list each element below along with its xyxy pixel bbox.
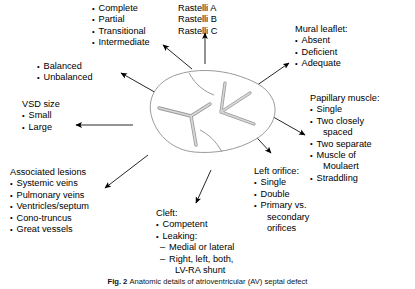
arrow-to-balance bbox=[121, 73, 158, 94]
block-header: Papillary muscle: bbox=[310, 93, 379, 104]
arrow-to-defect-type bbox=[163, 45, 192, 69]
list-item: orifices bbox=[254, 223, 309, 234]
block-header: Left orifice: bbox=[254, 166, 309, 177]
list-item: Large bbox=[22, 122, 60, 133]
caption-label: Fig. 2 bbox=[108, 277, 128, 286]
mural-leaflet-list: Absent Deficient Adequate bbox=[295, 35, 348, 69]
associated-lesions-list: Systemic veins Pulmonary veins Ventricle… bbox=[10, 178, 89, 235]
list-item: Cono-truncus bbox=[10, 213, 89, 224]
list-item: Two separate bbox=[310, 139, 379, 150]
list-item: Single bbox=[310, 104, 379, 115]
block-header: Associated lesions bbox=[10, 167, 89, 178]
block-left-orifice: Left orifice: Single Double Primary vs. … bbox=[254, 166, 309, 234]
block-header: Mural leaflet: bbox=[295, 24, 348, 35]
list-item: LV-RA shunt bbox=[156, 265, 234, 276]
list-item: Moulaert bbox=[310, 161, 379, 172]
list-item: Pulmonary veins bbox=[10, 190, 89, 201]
list-item: Unbalanced bbox=[37, 72, 93, 83]
block-header: Cleft: bbox=[156, 208, 234, 219]
block-cleft: Cleft: Competent Leaking: Medial or late… bbox=[156, 208, 234, 276]
list-item: Transitional bbox=[92, 26, 150, 37]
cleft-list: Competent Leaking: Medial or lateral Rig… bbox=[156, 219, 234, 276]
arrow-to-associated-lesions bbox=[105, 155, 148, 188]
list-item: Rastelli A bbox=[178, 3, 217, 14]
block-papillary-muscle: Papillary muscle: Single Two closely spa… bbox=[310, 93, 379, 184]
block-balance: Balanced Unbalanced bbox=[37, 61, 93, 84]
list-item: Medial or lateral bbox=[156, 242, 234, 253]
list-item: Right, left, both, bbox=[156, 254, 234, 265]
list-item: Great vessels bbox=[10, 224, 89, 235]
vsd-size-list: Small Large bbox=[22, 110, 60, 133]
block-mural-leaflet: Mural leaflet: Absent Deficient Adequate bbox=[295, 24, 348, 70]
block-associated-lesions: Associated lesions Systemic veins Pulmon… bbox=[10, 167, 89, 235]
rastelli-list: Rastelli A Rastelli B Rastelli C bbox=[178, 3, 217, 37]
list-item: Primary vs. bbox=[254, 200, 309, 211]
list-item: Double bbox=[254, 189, 309, 200]
list-item: Single bbox=[254, 177, 309, 188]
balance-list: Balanced Unbalanced bbox=[37, 61, 93, 84]
arrow-to-cleft bbox=[196, 170, 211, 203]
list-item: Complete bbox=[92, 3, 150, 14]
list-item: Systemic veins bbox=[10, 178, 89, 189]
left-orifice-list: Single Double Primary vs. secondary orif… bbox=[254, 177, 309, 234]
block-defect-type: Complete Partial Transitional Intermedia… bbox=[92, 3, 150, 49]
papillary-muscle-list: Single Two closely spaced Two separate M… bbox=[310, 104, 379, 184]
block-rastelli: Rastelli A Rastelli B Rastelli C bbox=[178, 3, 217, 37]
list-item: Adequate bbox=[295, 58, 348, 69]
list-item: Two closely bbox=[310, 116, 379, 127]
defect-type-list: Complete Partial Transitional Intermedia… bbox=[92, 3, 150, 49]
caption-text: Anatomic details of atrioventricular (AV… bbox=[129, 277, 307, 286]
list-item: Ventricles/septum bbox=[10, 201, 89, 212]
figure-caption: Fig. 2 Anatomic details of atrioventricu… bbox=[0, 277, 415, 286]
list-item: Balanced bbox=[37, 61, 93, 72]
list-item: secondary bbox=[254, 212, 309, 223]
av-valve-illustration bbox=[150, 70, 275, 152]
figure-av-septal-defect: Complete Partial Transitional Intermedia… bbox=[0, 0, 415, 289]
list-item: Leaking: bbox=[156, 231, 234, 242]
list-item: Deficient bbox=[295, 47, 348, 58]
list-item: Rastelli B bbox=[178, 14, 217, 25]
block-header: VSD size bbox=[22, 99, 60, 110]
list-item: Intermediate bbox=[92, 37, 150, 48]
list-item: Muscle of bbox=[310, 150, 379, 161]
list-item: Competent bbox=[156, 219, 234, 230]
list-item: Small bbox=[22, 110, 60, 121]
block-vsd-size: VSD size Small Large bbox=[22, 99, 60, 133]
list-item: spaced bbox=[310, 127, 379, 138]
list-item: Rastelli C bbox=[178, 26, 217, 37]
list-item: Straddling bbox=[310, 173, 379, 184]
list-item: Absent bbox=[295, 35, 348, 46]
list-item: Partial bbox=[92, 14, 150, 25]
